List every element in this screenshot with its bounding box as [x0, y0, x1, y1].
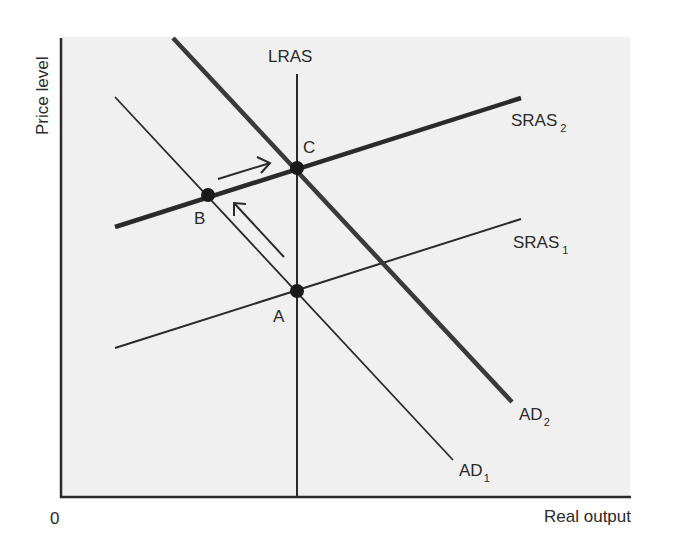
- point-c-label: C: [303, 138, 315, 157]
- x-axis-label: Real output: [544, 507, 631, 526]
- plot-area: [62, 37, 630, 497]
- point-c-marker: [290, 161, 304, 175]
- point-b-label: B: [194, 209, 205, 228]
- point-a-marker: [290, 284, 304, 298]
- point-a-label: A: [273, 307, 285, 326]
- lras-label: LRAS: [268, 47, 312, 66]
- y-axis-label: Price level: [33, 57, 52, 135]
- ad-as-diagram: Price level Real output 0 LRAS SRAS2 SRA…: [0, 0, 676, 555]
- origin-label: 0: [50, 509, 59, 528]
- point-b-marker: [201, 188, 215, 202]
